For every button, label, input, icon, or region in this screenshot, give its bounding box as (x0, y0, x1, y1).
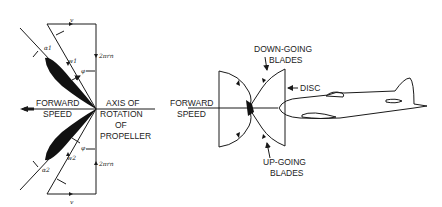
w1-label: w1 (68, 57, 77, 64)
forward-label-1: FORWARD (170, 98, 213, 108)
velocity-triangle-diagram: v v α1 α2 w1 w2 φ φ 2πrn 2πrn FORWARD SP… (20, 16, 155, 205)
axis-label-4: PROPELLER (100, 131, 151, 141)
forward-label-2: SPEED (43, 109, 72, 119)
phi2-label: φ (81, 144, 86, 152)
axis-label-1: AXIS OF (106, 98, 140, 108)
alpha2-label: α2 (42, 166, 50, 173)
down-going-label-2: BLADES (269, 55, 303, 65)
axis-label-2: ROTATION (100, 109, 143, 119)
up-going-label-1: UP-GOING (263, 157, 306, 167)
forward-label-2: SPEED (177, 109, 206, 119)
phi1-label: φ (81, 67, 86, 75)
v-top-label: v (70, 16, 74, 23)
disc-label: DISC (300, 83, 320, 93)
propeller-disc-diagram: FORWARD SPEED DOWN-GOING BLADES DISC UP-… (170, 44, 427, 178)
alpha1-label: α1 (44, 44, 52, 51)
rot-bottom-label: 2πrn (98, 160, 114, 167)
propeller-diagram: v v α1 α2 w1 w2 φ φ 2πrn 2πrn FORWARD SP… (0, 0, 442, 207)
rot-top-label: 2πrn (98, 52, 114, 59)
v-bottom-label: v (70, 198, 74, 205)
w2-label: w2 (67, 154, 76, 161)
forward-label-1: FORWARD (36, 98, 79, 108)
up-going-label-2: BLADES (270, 168, 304, 178)
down-going-label-1: DOWN-GOING (254, 44, 312, 54)
axis-label-3: OF (115, 120, 127, 130)
